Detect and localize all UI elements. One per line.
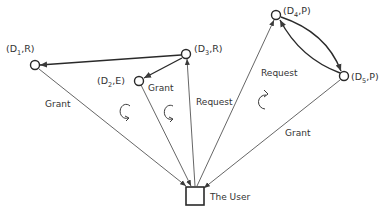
edge-label-grant-d1: Grant	[45, 99, 71, 109]
node-d4	[272, 11, 281, 20]
node-d5	[340, 72, 349, 81]
node-d2	[135, 77, 144, 86]
cycle-arrow-icon	[120, 104, 130, 121]
user-box	[186, 187, 204, 205]
node-d2-label: (D2,E)	[97, 75, 125, 89]
edge-d5-to-d4	[280, 20, 340, 73]
access-graph-diagram: (D1,R) (D2,E) (D3,R) (D4,P) (D5,P) Grant…	[0, 0, 389, 213]
user-label: The User	[209, 192, 250, 202]
edge-label-grant-d5: Grant	[285, 128, 311, 138]
node-d4-label: (D4,P)	[283, 5, 311, 19]
edge-d3-to-d1	[40, 55, 181, 65]
cycle-arrow-icon	[164, 105, 173, 122]
cycle-arrow-icon	[258, 90, 268, 109]
edge-d4-to-d5	[281, 17, 341, 71]
edge-user-to-d3	[187, 59, 195, 186]
edge-label-grant-d2: Grant	[148, 83, 174, 93]
node-d1	[31, 61, 40, 70]
edge-label-request-d4: Request	[261, 68, 298, 78]
node-d1-label: (D1,R)	[6, 43, 35, 57]
node-d3-label: (D3,R)	[194, 43, 223, 57]
edge-d2-to-user	[141, 85, 191, 186]
node-d3	[182, 50, 191, 59]
edge-d3-to-d2	[144, 58, 182, 78]
node-d5-label: (D5,P)	[351, 71, 379, 85]
edge-label-request-d3: Request	[196, 97, 233, 107]
